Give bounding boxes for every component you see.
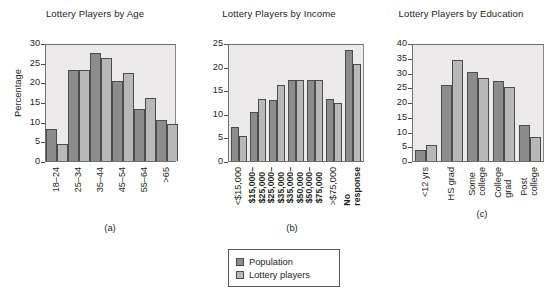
bar-population (288, 80, 296, 161)
y-tick-label: 10 (30, 118, 40, 127)
x-tick-label: Collegegrad (493, 167, 513, 198)
y-tick-label: 30 (397, 69, 407, 78)
legend-label-population: Population (249, 257, 293, 267)
legend-item-population: Population (236, 255, 331, 268)
chart-panel-age: Lottery Players by Age Percentage 051015… (0, 0, 186, 240)
bar-group (46, 45, 68, 161)
chart-panel-income: Lottery Players by Income 0510152025 <$1… (186, 0, 372, 240)
x-tick-label: $25,000–$35,000 (266, 167, 286, 203)
x-tick-label: $50,000–$75,000 (304, 167, 324, 203)
subcaption-b: (b) (262, 222, 322, 233)
legend-item-lottery-players: Lottery players (236, 268, 331, 281)
bar-lottery-players (353, 64, 361, 161)
y-tick-label: 20 (30, 79, 40, 88)
x-tick-label: 35–44 (95, 167, 105, 192)
bar-population (519, 125, 530, 161)
y-tick-label: 35 (397, 54, 407, 63)
bar-population (307, 80, 315, 161)
chart-legend: Population Lottery players (228, 249, 340, 287)
plot-area-education (412, 44, 544, 162)
bar-population (46, 129, 57, 161)
y-tick-label: 25 (213, 39, 223, 48)
bar-group (326, 45, 342, 161)
chart-panel-education: Lottery Players by Education 05101520253… (372, 0, 554, 240)
bar-population (441, 85, 452, 161)
bar-lottery-players (79, 70, 90, 161)
bar-group-container-age (46, 45, 175, 161)
chart-title-age: Lottery Players by Age (4, 8, 186, 19)
bar-population (493, 81, 504, 161)
x-tick-label: <$15,000 (233, 167, 243, 205)
y-tick-mark (41, 162, 45, 163)
x-tick-label: 45–54 (117, 167, 127, 192)
bar-group (90, 45, 112, 161)
bar-lottery-players (57, 144, 68, 161)
bar-lottery-players (296, 80, 304, 161)
x-tick-label: HS grad (446, 167, 456, 200)
lottery-players-figure: Lottery Players by Age Percentage 051015… (0, 0, 554, 293)
x-tick-label: <12 yrs (420, 167, 430, 197)
bar-population (90, 53, 101, 161)
bar-lottery-players (426, 145, 437, 161)
bar-lottery-players (258, 99, 266, 161)
bar-group (493, 45, 515, 161)
bar-group (68, 45, 90, 161)
legend-label-lottery-players: Lottery players (249, 270, 310, 280)
y-tick-mark (408, 162, 412, 163)
bar-group (441, 45, 463, 161)
bar-group (345, 45, 361, 161)
y-tick-label: 5 (218, 134, 223, 143)
bar-population (68, 70, 79, 161)
bar-lottery-players (334, 103, 342, 161)
y-tick-label: 25 (30, 59, 40, 68)
legend-swatch-population-icon (236, 258, 244, 266)
bar-group (112, 45, 134, 161)
subcaption-c: (c) (452, 208, 512, 219)
legend-swatch-lottery-players-icon (236, 271, 244, 279)
x-tick-label: Somecollege (467, 167, 487, 196)
bar-group (231, 45, 247, 161)
y-tick-mark (224, 162, 228, 163)
bar-population (156, 120, 167, 161)
bar-lottery-players (101, 58, 112, 161)
y-tick-label: 10 (213, 110, 223, 119)
y-tick-label: 25 (397, 84, 407, 93)
bar-group (250, 45, 266, 161)
x-tick-label: 25–34 (73, 167, 83, 192)
bar-lottery-players (167, 124, 178, 161)
y-tick-label: 0 (402, 157, 407, 166)
bar-population (269, 100, 277, 161)
bar-group (519, 45, 541, 161)
x-tick-label: Postcollege (519, 167, 539, 196)
x-tick-label: $15,000–$25,000 (247, 167, 267, 203)
bar-population (112, 81, 123, 161)
x-tick-label: >$75,000 (328, 167, 338, 205)
bar-lottery-players (239, 136, 247, 161)
bar-group (288, 45, 304, 161)
bar-group (156, 45, 178, 161)
chart-title-income: Lottery Players by Income (186, 8, 372, 19)
bar-population (345, 50, 353, 161)
y-tick-label: 30 (30, 39, 40, 48)
bar-lottery-players (452, 60, 463, 161)
y-axis-ticks-age: 051015202530 (18, 40, 43, 166)
bar-lottery-players (123, 73, 134, 162)
bar-group-container-income (229, 45, 363, 161)
y-tick-label: 5 (35, 138, 40, 147)
chart-title-education: Lottery Players by Education (368, 8, 554, 19)
bar-population (134, 109, 145, 161)
bar-population (467, 72, 478, 161)
x-tick-label: >65 (161, 167, 171, 182)
x-tick-label: Noresponse (342, 167, 362, 206)
y-axis-ticks-income: 0510152025 (202, 40, 226, 166)
plot-area-age (45, 44, 176, 162)
bar-group-container-education (413, 45, 543, 161)
y-tick-label: 10 (397, 128, 407, 137)
bar-group (269, 45, 285, 161)
bar-lottery-players (145, 98, 156, 161)
y-tick-label: 20 (397, 98, 407, 107)
y-axis-ticks-education: 0510152025303540 (385, 40, 410, 166)
bar-group (467, 45, 489, 161)
bar-lottery-players (530, 137, 541, 161)
plot-area-income (228, 44, 364, 162)
